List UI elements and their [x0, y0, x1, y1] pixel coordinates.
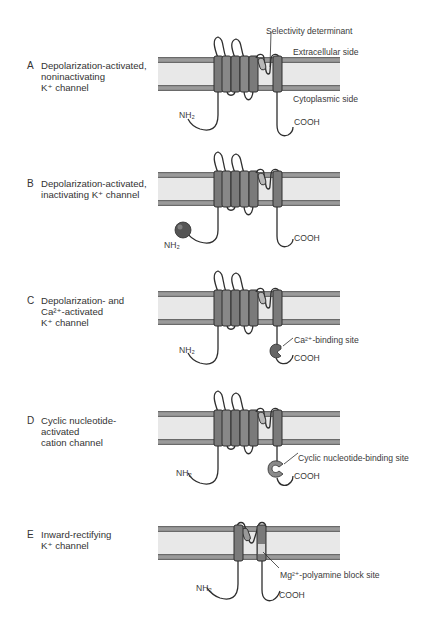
panel-c-cooh-label: COOH	[294, 353, 320, 363]
panel-b-title-line-2: inactivating K⁺ channel	[41, 189, 139, 200]
panel-d-title-line-1: Cyclic nucleotide-	[41, 415, 116, 426]
selectivity-determinant-label: Selectivity determinant	[266, 26, 352, 36]
panel-c-letter: C	[27, 295, 34, 306]
panel-d-cooh-label: COOH	[294, 471, 320, 481]
panel-b-cooh-label: COOH	[294, 233, 320, 243]
panel-b-title-line-1: Depolarization-activated,	[41, 178, 147, 189]
panel-d-title-line-3: cation channel	[41, 437, 103, 448]
panel-e-letter: E	[27, 529, 34, 540]
cytoplasmic-side-label: Cytoplasmic side	[293, 94, 358, 104]
panel-d-title-line-2: activated	[41, 426, 79, 437]
ca-binding-site	[270, 344, 281, 358]
panel-a-title-line-3: K⁺ channel	[41, 82, 89, 93]
panel-c-title-line-1: Depolarization- and	[41, 295, 124, 306]
panel-c-nh2-label: NH₂	[179, 345, 195, 355]
panel-c-title-line-2: Ca²⁺-activated	[41, 306, 103, 317]
panel-a-title-line-1: Depolarization-activated,	[41, 60, 147, 71]
panel-a-cooh-label: COOH	[294, 117, 320, 127]
panel-a-letter: A	[27, 60, 34, 71]
panel-e-graphic	[158, 523, 340, 601]
ca-binding-site-label: Ca²⁺-binding site	[294, 335, 359, 345]
panel-b-letter: B	[27, 178, 34, 189]
panel-a-title-line-2: noninactivating	[41, 71, 105, 82]
panel-d-nh2-label: NH₂	[176, 468, 192, 478]
extracellular-side-label: Extracellular side	[293, 47, 358, 57]
panel-e-cooh-label: COOH	[279, 590, 305, 600]
mg-block-site-label: Mg²⁺-polyamine block site	[280, 570, 380, 580]
panel-c-title-line-3: K⁺ channel	[41, 317, 89, 328]
panel-a-nh2-label: NH₂	[179, 110, 195, 120]
cnb-site-label: Cyclic nucleotide-binding site	[298, 453, 409, 463]
panel-e-title-line-2: K⁺ channel	[41, 540, 89, 551]
panel-b-nh2-label: NH₂	[164, 240, 180, 250]
cnb-site	[268, 461, 283, 477]
inactivation-ball	[175, 222, 191, 238]
panel-e-title-line-1: Inward-rectifying	[41, 529, 111, 540]
panel-d-letter: D	[27, 415, 34, 426]
panel-e-nh2-label: NH₂	[196, 583, 212, 593]
